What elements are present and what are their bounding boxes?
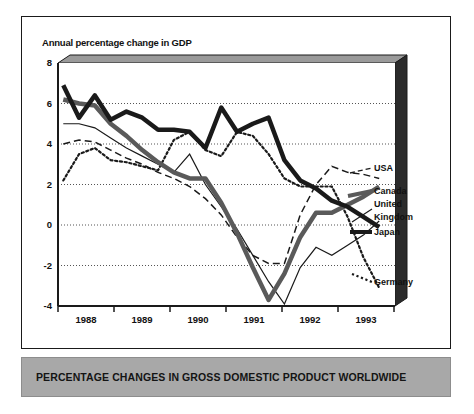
y-tick-6: 6 (47, 98, 52, 109)
y-tick-2: 2 (47, 179, 52, 190)
caption-text: PERCENTAGE CHANGES IN GROSS DOMESTIC PRO… (36, 371, 406, 383)
legend-label-united-kingdom-line2: Kingdom (374, 212, 413, 222)
plot-box-right-face (395, 55, 407, 306)
x-axis-tick-labels: 1988 1989 1990 1991 1992 1993 (75, 314, 376, 325)
x-tick-1988: 1988 (75, 314, 96, 325)
legend-label-germany: Germany (374, 277, 413, 287)
x-tick-1991: 1991 (243, 314, 265, 325)
x-tick-1992: 1992 (299, 314, 320, 325)
x-tick-1993: 1993 (355, 314, 376, 325)
gdp-chart-figure: Annual percentage change in GDP 8 6 (0, 0, 474, 414)
y-tick-4: 4 (47, 138, 53, 149)
y-tick-0: 0 (47, 219, 52, 230)
plot-box-top-face (58, 55, 407, 63)
y-tick-8: 8 (47, 57, 52, 68)
y-tick-minus4: -4 (44, 300, 53, 311)
legend-label-japan: Japan (374, 227, 400, 237)
y-axis-tick-labels: 8 6 4 2 0 -2 -4 (44, 57, 53, 311)
x-tick-1989: 1989 (131, 314, 152, 325)
legend-label-usa: USA (374, 163, 394, 173)
legend-label-united-kingdom-line1: United (374, 199, 402, 209)
y-tick-minus2: -2 (44, 260, 52, 271)
x-tick-1990: 1990 (187, 314, 208, 325)
chart-plot: 8 6 4 2 0 -2 -4 1988 1989 1990 1991 1992… (0, 0, 474, 414)
legend-label-canada: Canada (374, 186, 408, 196)
